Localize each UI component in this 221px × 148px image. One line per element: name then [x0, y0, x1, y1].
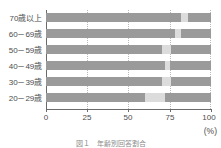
bar-segment-3: [171, 45, 211, 54]
bar-segment-1: [46, 13, 181, 22]
bar-segment-1: [46, 61, 165, 70]
x-axis-tick-label-1: 25: [83, 113, 92, 123]
x-tick-75: [170, 109, 171, 112]
bar-segment-3: [181, 29, 211, 38]
table-row: [46, 13, 211, 22]
figure-caption: 図１ 年齢別回答割合: [0, 140, 221, 148]
x-axis-tick-label-0: 0: [44, 113, 48, 123]
y-axis-label-3: 40－49歳: [9, 62, 42, 72]
bar-segment-3: [165, 93, 211, 102]
x-axis-line: [46, 109, 212, 110]
x-tick-25: [87, 109, 88, 112]
y-axis-label-2: 50－59歳: [9, 46, 42, 56]
x-axis-tick-label-4: 100: [202, 113, 215, 123]
table-row: [46, 61, 211, 70]
x-axis-unit-label: (%): [204, 126, 217, 136]
x-tick-0: [46, 109, 47, 112]
bar-segment-3: [170, 61, 211, 70]
bar-segment-1: [46, 93, 145, 102]
bar-segment-3: [171, 77, 211, 86]
bar-segment-1: [46, 29, 175, 38]
bar-segment-2: [175, 29, 182, 38]
bar-segment-1: [46, 45, 162, 54]
bar-chart: 70歳以上 60－69歳 50－59歳 40－49歳 30－39歳 20－29歳: [0, 0, 221, 148]
table-row: [46, 77, 211, 86]
y-axis-label-1: 60－69歳: [9, 30, 42, 40]
table-row: [46, 45, 211, 54]
x-tick-100: [211, 109, 212, 112]
y-axis-label-4: 30－39歳: [9, 78, 42, 88]
bar-segment-2: [162, 45, 172, 54]
x-axis-tick-label-2: 50: [124, 113, 133, 123]
x-axis-tick-label-3: 75: [166, 113, 175, 123]
table-row: [46, 29, 211, 38]
x-tick-50: [128, 109, 129, 112]
bar-segment-2: [145, 93, 165, 102]
bar-segment-3: [188, 13, 211, 22]
y-axis-label-0: 70歳以上: [10, 14, 42, 24]
table-row: [46, 93, 211, 102]
plot-area: [46, 10, 211, 109]
bar-segment-2: [162, 77, 172, 86]
bar-segment-2: [181, 13, 188, 22]
bar-segment-1: [46, 77, 162, 86]
y-axis-label-5: 20－29歳: [9, 94, 42, 104]
